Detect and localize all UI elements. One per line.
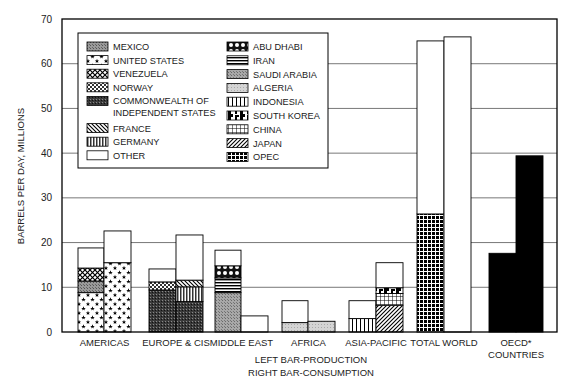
y-tick-label: 30 xyxy=(41,192,53,203)
y-axis-title: BARRELS PER DAY, MILLIONS xyxy=(15,108,26,244)
y-tick-label: 70 xyxy=(41,14,53,25)
legend-label: SOUTH KOREA xyxy=(253,111,321,121)
legend-swatch-venezuela xyxy=(87,69,108,78)
bar-segment-other xyxy=(241,316,268,332)
bar-segment-mexico xyxy=(78,281,104,293)
bar-segment-opec xyxy=(417,214,444,332)
note-production: LEFT BAR-PRODUCTION xyxy=(255,354,367,365)
legend-swatch-japan xyxy=(227,139,248,148)
legend-label: MEXICO xyxy=(113,42,149,52)
bar-segment-other xyxy=(215,250,241,266)
category-label: AFRICA xyxy=(291,337,327,348)
legend-label: FRANCE xyxy=(113,124,151,134)
y-tick-label: 40 xyxy=(41,148,53,159)
bar-segment-other xyxy=(149,269,176,282)
legend-label: CHINA xyxy=(253,125,282,135)
bar-segment-oecd xyxy=(489,253,516,332)
legend-label: IRAN xyxy=(253,56,275,66)
legend-swatch-other xyxy=(87,151,108,160)
bar-segment-saudi xyxy=(215,293,241,332)
chart: 010203040506070 AMERICASEUROPE & CISMIDD… xyxy=(0,0,572,389)
bar-segment-us xyxy=(78,293,104,332)
bar-segment-other xyxy=(376,263,403,288)
y-tick-label: 60 xyxy=(41,58,53,69)
bar-consumption xyxy=(104,231,131,332)
legend-swatch-cis xyxy=(87,96,108,105)
bar-segment-germany xyxy=(176,287,203,302)
bar-segment-us xyxy=(104,263,131,332)
bar-segment-other xyxy=(282,301,308,323)
legend-label: OTHER xyxy=(113,151,146,161)
legend-label: NORWAY xyxy=(113,83,153,93)
y-axis-ticks: 010203040506070 xyxy=(41,14,53,338)
legend-swatch-southkorea xyxy=(227,111,248,120)
legend-label: SAUDI ARABIA xyxy=(253,70,318,80)
legend-swatch-indonesia xyxy=(227,97,248,106)
y-tick-label: 50 xyxy=(41,103,53,114)
category-label: COUNTRIES xyxy=(488,349,544,360)
legend: MEXICOUNITED STATESVENEZUELANORWAYCOMMON… xyxy=(78,33,328,168)
bar-segment-other xyxy=(444,37,471,332)
bar-consumption xyxy=(444,37,471,332)
legend-swatch-us xyxy=(87,56,108,65)
bar-segment-other xyxy=(104,231,131,263)
bar-segment-other xyxy=(176,235,203,280)
bar-consumption xyxy=(241,316,268,332)
legend-label: COMMONWEALTH OF xyxy=(113,96,209,106)
bar-production xyxy=(78,248,104,332)
bar-consumption xyxy=(308,321,335,332)
bar-production xyxy=(149,269,176,332)
category-label: MIDDLE EAST xyxy=(210,337,274,348)
bar-segment-venezuela xyxy=(78,268,104,281)
bar-segment-oecd xyxy=(516,156,543,332)
legend-swatch-france xyxy=(87,124,108,133)
bar-segment-cis xyxy=(176,302,203,332)
bar-segment-abudhabi xyxy=(215,266,241,278)
bar-production xyxy=(215,250,241,332)
y-tick-label: 20 xyxy=(41,237,53,248)
bar-production xyxy=(417,41,444,332)
legend-swatch-china xyxy=(227,125,248,134)
bar-consumption xyxy=(176,235,203,332)
legend-label: VENEZUELA xyxy=(113,69,169,79)
note-consumption: RIGHT BAR-CONSUMPTION xyxy=(248,367,374,378)
bar-segment-southkorea xyxy=(376,288,403,294)
legend-label: OPEC xyxy=(253,152,279,162)
bar-production xyxy=(349,301,376,332)
bar-segment-iran xyxy=(215,278,241,293)
bar-production xyxy=(282,301,308,332)
bar-consumption xyxy=(376,263,403,332)
legend-swatch-abudhabi xyxy=(227,42,248,51)
legend-label: GERMANY xyxy=(113,137,159,147)
category-label: AMERICAS xyxy=(80,337,130,348)
legend-swatch-algeria xyxy=(227,83,248,92)
legend-swatch-iran xyxy=(227,56,248,65)
category-label: TOTAL WORLD xyxy=(410,337,478,348)
bar-segment-norway xyxy=(149,282,176,290)
category-label: EUROPE & CIS xyxy=(142,337,210,348)
bar-production xyxy=(489,253,516,332)
bar-segment-france xyxy=(176,280,203,287)
y-tick-label: 10 xyxy=(41,282,53,293)
legend-swatch-norway xyxy=(87,83,108,92)
legend-swatch-mexico xyxy=(87,42,108,51)
category-label: OECD* xyxy=(500,337,531,348)
category-label: ASIA-PACIFIC xyxy=(345,337,407,348)
legend-swatch-germany xyxy=(87,137,108,146)
bar-segment-cis xyxy=(149,290,176,332)
bar-consumption xyxy=(516,156,543,332)
legend-label: ALGERIA xyxy=(253,83,294,93)
bar-segment-other xyxy=(417,41,444,214)
legend-label: INDONESIA xyxy=(253,97,304,107)
legend-label: UNITED STATES xyxy=(113,56,184,66)
legend-swatch-saudi xyxy=(227,70,248,79)
y-tick-label: 0 xyxy=(46,327,52,338)
bar-segment-other xyxy=(78,248,104,268)
legend-swatch-opec xyxy=(227,152,248,161)
bar-segment-other xyxy=(349,301,376,319)
legend-label: JAPAN xyxy=(253,139,282,149)
legend-label: INDEPENDENT STATES xyxy=(113,108,216,118)
bar-segment-japan xyxy=(376,305,403,332)
bar-segment-algeria xyxy=(308,321,335,332)
bar-segment-indonesia xyxy=(349,319,376,332)
